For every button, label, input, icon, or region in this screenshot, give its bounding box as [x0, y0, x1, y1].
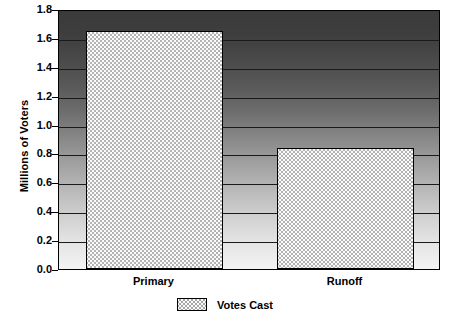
y-tick-label: 0.8: [10, 148, 52, 159]
y-tick-mark: [52, 39, 58, 40]
y-tick-label: 0.4: [10, 206, 52, 217]
y-tick-mark: [52, 270, 58, 271]
y-tick-mark: [52, 97, 58, 98]
y-tick-mark: [52, 126, 58, 127]
y-tick-mark: [52, 212, 58, 213]
y-tick-label: 1.2: [10, 91, 52, 102]
y-tick-label: 1.0: [10, 120, 52, 131]
y-tick-label: 0.2: [10, 235, 52, 246]
x-axis-label-primary: Primary: [94, 275, 214, 287]
y-tick-label: 1.6: [10, 33, 52, 44]
y-tick-mark: [52, 183, 58, 184]
y-tick-label: 1.4: [10, 62, 52, 73]
x-axis-label-runoff: Runoff: [285, 275, 405, 287]
y-tick-mark: [52, 68, 58, 69]
y-tick-mark: [52, 241, 58, 242]
votes-cast-swatch: [177, 298, 207, 311]
y-axis-ticks: 0.00.20.40.60.81.01.21.41.61.8: [0, 10, 450, 270]
y-tick-mark: [52, 10, 58, 11]
y-tick-label: 0.0: [10, 264, 52, 275]
legend-label-votes-cast: Votes Cast: [217, 299, 273, 311]
y-tick-label: 1.8: [10, 4, 52, 15]
chart-legend: Votes Cast: [0, 298, 450, 311]
y-tick-mark: [52, 154, 58, 155]
bar-chart: Millions of Voters 0.00.20.40.60.81.01.2…: [0, 0, 450, 323]
y-tick-label: 0.6: [10, 177, 52, 188]
